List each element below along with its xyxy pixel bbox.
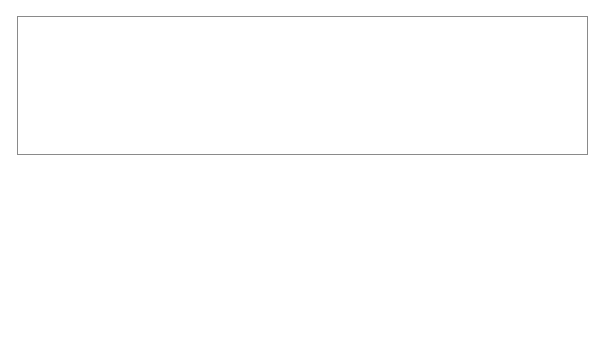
figure-frame (18, 17, 588, 155)
seepage-head-diagram (0, 0, 603, 339)
